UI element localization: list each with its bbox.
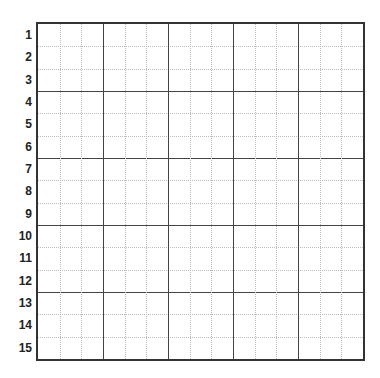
- major-row-divider: [38, 225, 363, 226]
- major-row-divider: [38, 292, 363, 293]
- row-label: 11: [0, 247, 32, 270]
- row-label: 4: [0, 91, 32, 114]
- minor-column-divider: [341, 24, 342, 359]
- row-label: 8: [0, 180, 32, 203]
- row-label: 14: [0, 314, 32, 337]
- minor-column-divider: [255, 24, 256, 359]
- row-label: 13: [0, 292, 32, 315]
- minor-column-divider: [276, 24, 277, 359]
- major-column-divider: [168, 24, 169, 359]
- minor-row-divider: [38, 113, 363, 114]
- row-label: 2: [0, 46, 32, 69]
- grid-canvas[interactable]: [36, 22, 365, 361]
- row-label: 3: [0, 69, 32, 92]
- major-column-divider: [233, 24, 234, 359]
- minor-column-divider: [190, 24, 191, 359]
- row-label: 9: [0, 203, 32, 226]
- minor-column-divider: [146, 24, 147, 359]
- major-row-divider: [38, 91, 363, 92]
- row-label: 6: [0, 136, 32, 159]
- major-column-divider: [103, 24, 104, 359]
- row-label: 12: [0, 270, 32, 293]
- major-row-divider: [38, 158, 363, 159]
- minor-row-divider: [38, 203, 363, 204]
- major-column-divider: [298, 24, 299, 359]
- minor-row-divider: [38, 69, 363, 70]
- minor-column-divider: [81, 24, 82, 359]
- minor-row-divider: [38, 46, 363, 47]
- minor-column-divider: [320, 24, 321, 359]
- minor-column-divider: [60, 24, 61, 359]
- row-label: 1: [0, 24, 32, 47]
- minor-column-divider: [211, 24, 212, 359]
- minor-row-divider: [38, 136, 363, 137]
- minor-column-divider: [125, 24, 126, 359]
- minor-row-divider: [38, 247, 363, 248]
- row-label: 7: [0, 158, 32, 181]
- minor-row-divider: [38, 337, 363, 338]
- minor-row-divider: [38, 314, 363, 315]
- row-label: 10: [0, 225, 32, 248]
- row-label: 5: [0, 113, 32, 136]
- row-label: 15: [0, 337, 32, 360]
- minor-row-divider: [38, 270, 363, 271]
- minor-row-divider: [38, 180, 363, 181]
